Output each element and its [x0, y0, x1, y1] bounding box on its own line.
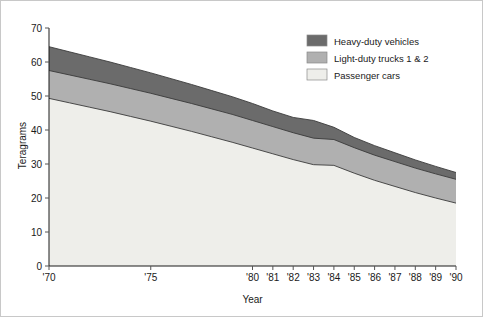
legend-label: Light-duty trucks 1 & 2	[334, 53, 429, 64]
x-axis-label: Year	[223, 294, 283, 305]
x-tick-label: '83	[307, 272, 320, 283]
x-tick-label: '82	[287, 272, 300, 283]
x-tick-label: '81	[266, 272, 279, 283]
y-tick-label: 50	[31, 91, 43, 102]
legend-label: Passenger cars	[334, 70, 400, 81]
x-tick-label: '75	[144, 272, 157, 283]
y-tick-label: 10	[31, 227, 43, 238]
x-tick-label: '80	[246, 272, 259, 283]
x-tick-label: '89	[429, 272, 442, 283]
legend-label: Heavy-duty vehicles	[334, 36, 419, 47]
y-tick-group: 010203040506070	[31, 23, 49, 272]
x-tick-label: '88	[409, 272, 422, 283]
x-tick-label: '87	[388, 272, 401, 283]
legend-swatch	[307, 35, 327, 46]
y-tick-label: 70	[31, 23, 43, 34]
y-tick-label: 40	[31, 125, 43, 136]
y-tick-label: 20	[31, 193, 43, 204]
y-tick-label: 30	[31, 159, 43, 170]
y-tick-label: 60	[31, 57, 43, 68]
x-tick-label: '86	[368, 272, 381, 283]
y-tick-label: 0	[36, 261, 42, 272]
y-axis-label: Teragrams	[17, 111, 28, 181]
x-tick-label: '70	[42, 272, 55, 283]
stacked-area-chart: 010203040506070 '70'75'80'81'82'83'84'85…	[1, 1, 483, 317]
chart-figure: 010203040506070 '70'75'80'81'82'83'84'85…	[0, 0, 483, 317]
x-tick-label: '90	[449, 272, 462, 283]
legend-swatch	[307, 69, 327, 80]
x-tick-label: '84	[327, 272, 340, 283]
chart-legend: Heavy-duty vehiclesLight-duty trucks 1 &…	[307, 35, 429, 81]
x-tick-label: '85	[348, 272, 361, 283]
x-tick-group: '70'75'80'81'82'83'84'85'86'87'88'89'90	[42, 266, 462, 283]
legend-swatch	[307, 52, 327, 63]
